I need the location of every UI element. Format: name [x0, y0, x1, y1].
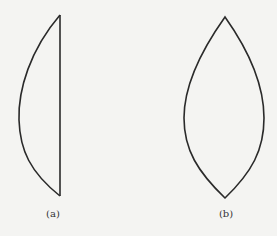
panel-label-b: (b) — [219, 208, 233, 219]
figure-canvas — [0, 0, 277, 236]
panel-label-a: (a) — [46, 208, 60, 219]
shape-b — [184, 17, 264, 198]
shape-b-outline — [184, 17, 264, 198]
shape-a-curved-edge — [19, 15, 60, 196]
shape-a — [19, 15, 60, 196]
